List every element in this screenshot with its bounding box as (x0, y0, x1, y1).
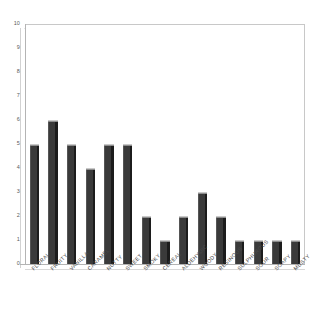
y-axis-tick-label: 1 (2, 237, 20, 243)
y-axis-tick-label: 5 (2, 141, 20, 147)
bar[interactable] (86, 168, 96, 264)
y-axis-tick-label: 2 (2, 213, 20, 219)
bar[interactable] (123, 144, 133, 264)
x-axis-labels: FLORALFRUITYVANILLACARAMELNUTTYSWEETSMOK… (25, 266, 305, 328)
bar-side-face (37, 146, 40, 264)
bars-layer (25, 24, 305, 264)
bar-side-face (223, 218, 226, 264)
bar-slot (81, 24, 100, 264)
bar-side-face (93, 170, 96, 264)
bar-slot (212, 24, 231, 264)
bar-left-edge (291, 242, 292, 264)
bar-side-face (111, 146, 114, 264)
y-axis-tick-label: 7 (2, 93, 20, 99)
bar-left-edge (48, 122, 49, 264)
bar-slot (137, 24, 156, 264)
bar[interactable] (30, 144, 40, 264)
bar-slot (230, 24, 249, 264)
bar-slot (118, 24, 137, 264)
bar-side-face (74, 146, 77, 264)
y-axis-tick-label: 8 (2, 69, 20, 75)
bar-slot (249, 24, 268, 264)
bar-left-edge (104, 146, 105, 264)
bar-slot (268, 24, 287, 264)
bar[interactable] (67, 144, 77, 264)
bar-slot (25, 24, 44, 264)
y-axis-tick-label: 0 (2, 261, 20, 267)
bar-side-face (55, 122, 58, 264)
bar-side-face (186, 218, 189, 264)
bar-slot (44, 24, 63, 264)
bar-slot (62, 24, 81, 264)
bar-slot (100, 24, 119, 264)
bar-left-edge (272, 242, 273, 264)
bar-slot (193, 24, 212, 264)
bar-left-edge (123, 146, 124, 264)
bar-left-edge (160, 242, 161, 264)
y-axis-tick-label: 6 (2, 117, 20, 123)
y-axis-tick-label: 4 (2, 165, 20, 171)
bar[interactable] (48, 120, 58, 264)
bar-slot (174, 24, 193, 264)
y-axis-tick-label: 3 (2, 189, 20, 195)
bar-slot (156, 24, 175, 264)
bar-side-face (205, 194, 208, 264)
y-axis-tick-label: 10 (2, 21, 20, 27)
bar-left-edge (30, 146, 31, 264)
bar-left-edge (67, 146, 68, 264)
y-axis: 012345678910 (0, 0, 20, 329)
y-axis-tick-label: 9 (2, 45, 20, 51)
bar-chart: 012345678910 FLORALFRUITYVANILLACARAMELN… (0, 0, 330, 329)
bar-slot (286, 24, 305, 264)
bar-side-face (130, 146, 133, 264)
